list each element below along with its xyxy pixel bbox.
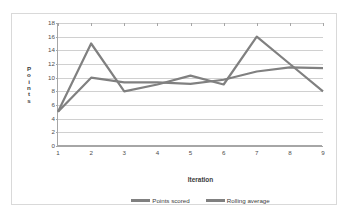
x-axis-title: Iteration (68, 176, 333, 183)
chart-legend: Points scored Rolling average (68, 197, 333, 204)
x-axis-tick-mark (323, 23, 324, 26)
x-axis-tick-label: 3 (123, 150, 126, 156)
y-axis-tick-label: 18 (48, 20, 55, 26)
y-axis-tick-label: 6 (52, 102, 55, 108)
legend-item-rolling-average[interactable]: Rolling average (206, 197, 270, 204)
chart-frame: P o i n t s 024681012141618 123456789 It… (11, 13, 337, 205)
x-axis-tick-label: 2 (89, 150, 92, 156)
y-axis-title: P o i n t s (24, 66, 34, 104)
y-axis-tick-label: 2 (52, 129, 55, 135)
legend-swatch-rolling-average (206, 199, 225, 202)
x-axis-tick-label: 4 (156, 150, 159, 156)
y-axis-tick-label: 0 (52, 143, 55, 149)
y-axis-tick-mark (56, 146, 58, 147)
y-axis-title-char: s (24, 98, 34, 104)
y-axis-tick-label: 8 (52, 88, 55, 94)
legend-label-rolling-average: Rolling average (227, 197, 270, 204)
y-axis-tick-label: 14 (48, 47, 55, 53)
plot-area: 024681012141618 123456789 (57, 23, 322, 146)
y-axis-tick-label: 10 (48, 75, 55, 81)
x-axis-tick-label: 8 (288, 150, 291, 156)
legend-label-points-scored: Points scored (152, 197, 190, 204)
gridline (58, 146, 323, 147)
series-line (58, 37, 323, 112)
series-lines (58, 23, 323, 146)
y-axis-tick-label: 12 (48, 61, 55, 67)
y-axis-tick-label: 4 (52, 116, 55, 122)
series-line (58, 67, 323, 111)
x-axis-tick-label: 9 (321, 150, 324, 156)
legend-swatch-points-scored (131, 199, 150, 202)
legend-item-points-scored[interactable]: Points scored (131, 197, 190, 204)
y-axis-tick-label: 16 (48, 34, 55, 40)
x-axis-tick-label: 6 (222, 150, 225, 156)
x-axis-tick-label: 5 (189, 150, 192, 156)
x-axis-tick-label: 1 (56, 150, 59, 156)
x-axis-tick-label: 7 (255, 150, 258, 156)
